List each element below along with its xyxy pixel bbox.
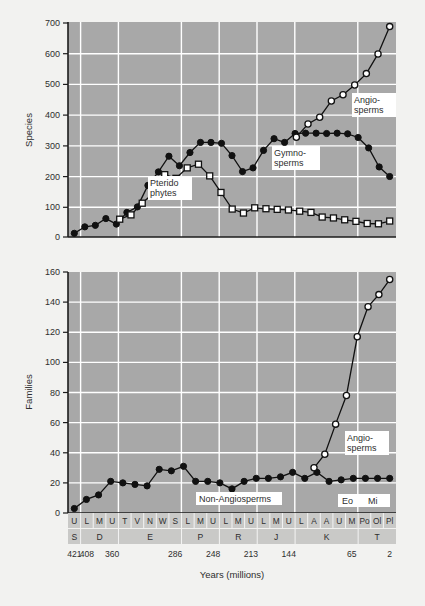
families-ytick-40: 40 — [50, 448, 60, 458]
families-ytick-0: 0 — [55, 508, 60, 518]
period-label-P: P — [198, 532, 204, 542]
gymnosperms-point — [376, 164, 382, 170]
pteridophytes-point — [207, 173, 213, 179]
pteridophytes-point — [229, 206, 235, 212]
pteridophytes-label-line1: Pterido — [150, 178, 179, 188]
angiosperms-families-point — [311, 465, 317, 471]
species-ytick-600: 600 — [45, 49, 60, 59]
families-ytick-20: 20 — [50, 478, 60, 488]
species-ytick-0: 0 — [55, 232, 60, 242]
non-angiosperms-point — [229, 486, 235, 492]
pteridophytes-point — [252, 205, 258, 211]
angiosperms-species-label-line1: Angio- — [354, 95, 380, 105]
gymnosperms-point — [155, 169, 161, 175]
stage-label-9: L — [186, 516, 191, 526]
annotation-pteridophytes: Pterido phytes — [148, 176, 192, 200]
pteridophytes-point — [319, 214, 325, 220]
species-chart: 700 600 500 400 300 200 100 0 Pterido ph… — [23, 18, 396, 242]
stage-label-8: S — [172, 516, 178, 526]
gymnosperms-point — [208, 139, 214, 145]
gymnosperms-point — [71, 230, 77, 236]
species-ytick-500: 500 — [45, 79, 60, 89]
families-ytick-160: 160 — [45, 267, 60, 277]
families-ytick-60: 60 — [50, 418, 60, 428]
angiosperms-species-point — [375, 51, 381, 57]
stage-label-0: U — [71, 516, 77, 526]
angiosperms-families-point — [343, 392, 349, 398]
gymnosperms-point — [82, 224, 88, 230]
families-ytick-100: 100 — [45, 357, 60, 367]
year-tick-408: 408 — [80, 549, 95, 559]
x-axis-title: Years (millions) — [200, 569, 265, 580]
pteridophytes-point — [117, 216, 123, 222]
annotation-gymnosperms: Gymno- sperms — [272, 146, 320, 170]
families-ytick-120: 120 — [45, 327, 60, 337]
angiosperms-families-point — [333, 421, 339, 427]
angiosperms-families-label-line2: sperms — [347, 443, 377, 453]
gymnosperms-point — [302, 130, 308, 136]
pteridophytes-point — [308, 209, 314, 215]
gymnosperms-point — [313, 130, 319, 136]
families-axis-title: Families — [23, 374, 34, 410]
gymnosperms-point — [187, 149, 193, 155]
year-tick-65: 65 — [347, 549, 357, 559]
stage-label-20: A — [324, 516, 330, 526]
pteridophytes-point — [263, 206, 269, 212]
gymnosperms-point — [218, 140, 224, 146]
non-angiosperms-point — [241, 478, 247, 484]
stage-label-19: A — [311, 516, 317, 526]
non-angiosperms-point — [253, 475, 259, 481]
gymnosperms-point — [176, 163, 182, 169]
angiosperms-families-point — [365, 304, 371, 310]
year-tick-360: 360 — [105, 549, 120, 559]
epoch-eocene-label: Eo — [342, 496, 353, 506]
annotation-epochs: Eo Mi — [338, 494, 390, 507]
gymnosperms-point — [366, 145, 372, 151]
gymnosperms-point — [229, 153, 235, 159]
non-angiosperms-point — [265, 475, 271, 481]
angiosperms-families-point — [322, 451, 328, 457]
stage-label-3: U — [109, 516, 115, 526]
gymnosperms-point — [103, 215, 109, 221]
families-chart: 160 140 120 100 80 60 40 20 0 Non-Angios… — [23, 267, 396, 518]
period-label-S: S — [71, 532, 77, 542]
stage-label-13: M — [235, 516, 242, 526]
stage-label-23: Po — [359, 516, 370, 526]
gymnosperms-point — [260, 147, 266, 153]
gymnosperms-point — [387, 173, 393, 179]
angiosperms-species-point — [328, 98, 334, 104]
gymnosperms-point — [281, 139, 287, 145]
pteridophytes-point — [218, 189, 224, 195]
species-ytick-400: 400 — [45, 110, 60, 120]
gymnosperms-point — [345, 131, 351, 137]
year-tick-248: 248 — [206, 549, 221, 559]
angiosperms-families-point — [387, 276, 393, 282]
period-label-E: E — [147, 532, 153, 542]
figure-page: 700 600 500 400 300 200 100 0 Pterido ph… — [0, 0, 425, 606]
stage-label-12: L — [223, 516, 228, 526]
angiosperms-species-point — [340, 92, 346, 98]
angiosperms-species-point — [293, 134, 299, 140]
angiosperms-species-point — [363, 71, 369, 77]
plant-diversity-figure: 700 600 500 400 300 200 100 0 Pterido ph… — [0, 0, 425, 606]
species-ytick-300: 300 — [45, 141, 60, 151]
pteridophytes-point — [139, 200, 145, 206]
gymnosperms-label-line2: sperms — [274, 158, 304, 168]
period-label-J: J — [274, 532, 278, 542]
gymnosperms-point — [166, 153, 172, 159]
pteridophytes-point — [195, 161, 201, 167]
stage-label-2: M — [96, 516, 103, 526]
non-angiosperms-point — [217, 480, 223, 486]
pteridophytes-point — [184, 165, 190, 171]
gymnosperms-point — [271, 136, 277, 142]
species-ytick-100: 100 — [45, 202, 60, 212]
pteridophytes-point — [297, 208, 303, 214]
period-label-T: T — [374, 532, 380, 542]
gymnosperms-point — [334, 130, 340, 136]
gymnosperms-point — [92, 222, 98, 228]
angiosperms-species-point — [352, 82, 358, 88]
stage-label-18: L — [299, 516, 304, 526]
gymnosperms-point — [197, 139, 203, 145]
pteridophytes-label-line2: phytes — [150, 188, 177, 198]
non-angiosperms-point — [374, 475, 380, 481]
